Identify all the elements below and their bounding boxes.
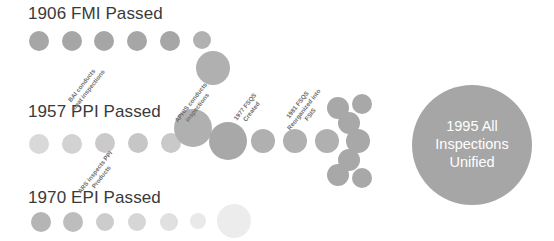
timeline-diagram: 1906 FMI Passed1957 PPI Passed1970 EPI P… bbox=[0, 0, 554, 241]
hub-line-1: 1995 All bbox=[435, 118, 508, 136]
timeline-dot bbox=[95, 133, 115, 153]
timeline-dot bbox=[94, 31, 114, 51]
timeline-event-label: 1981 FSQSReorganized intoFSIS bbox=[279, 82, 329, 136]
timeline-dot bbox=[160, 213, 178, 231]
timeline-dot bbox=[128, 213, 146, 231]
timeline-dot bbox=[196, 51, 230, 85]
timeline-dot bbox=[352, 94, 372, 114]
timeline-dot bbox=[209, 122, 247, 160]
timeline-dot bbox=[352, 168, 372, 188]
timeline-dot bbox=[315, 129, 339, 153]
timeline-dot bbox=[29, 31, 49, 51]
timeline-event-label: 1977 FSQSCreated bbox=[232, 92, 264, 127]
timeline-dot bbox=[338, 112, 360, 134]
timeline-heading: 1906 FMI Passed bbox=[28, 4, 163, 24]
timeline-dot bbox=[190, 213, 206, 229]
timeline-dot bbox=[31, 212, 51, 232]
timeline-dot bbox=[29, 134, 49, 154]
timeline-dot bbox=[251, 129, 275, 153]
hub-line-3: Unified bbox=[435, 154, 508, 172]
unified-hub-circle: 1995 All Inspections Unified bbox=[412, 85, 532, 205]
timeline-dot bbox=[217, 204, 251, 238]
timeline-dot bbox=[128, 133, 148, 153]
timeline-dot bbox=[160, 31, 180, 51]
hub-text: 1995 All Inspections Unified bbox=[435, 118, 508, 172]
timeline-dot bbox=[193, 31, 211, 49]
timeline-dot bbox=[63, 212, 83, 232]
timeline-dot bbox=[127, 31, 147, 51]
timeline-dot bbox=[96, 213, 114, 231]
timeline-dot bbox=[327, 164, 349, 186]
timeline-dot bbox=[62, 31, 82, 51]
hub-line-2: Inspections bbox=[435, 136, 508, 154]
timeline-dot bbox=[62, 134, 82, 154]
timeline-heading: 1957 PPI Passed bbox=[28, 102, 161, 122]
